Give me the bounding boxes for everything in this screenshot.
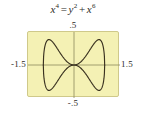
plot-canvas [28, 32, 120, 98]
x-max-tick-label: 1.5 [121, 59, 146, 69]
equation-caption: x4=y2+x6 [0, 3, 146, 15]
x-min-tick-label: -1.5 [0, 59, 26, 69]
equation-operator: + [77, 3, 86, 15]
graph-figure: x4=y2+x6 .5 -.5 -1.5 1.5 [0, 0, 146, 116]
y-max-tick-label: .5 [0, 20, 146, 30]
equation-rhs-term2-exponent: 6 [92, 2, 96, 10]
graph-viewport [27, 31, 119, 97]
y-min-tick-label: -.5 [0, 98, 146, 108]
equation-relation: = [59, 3, 68, 15]
